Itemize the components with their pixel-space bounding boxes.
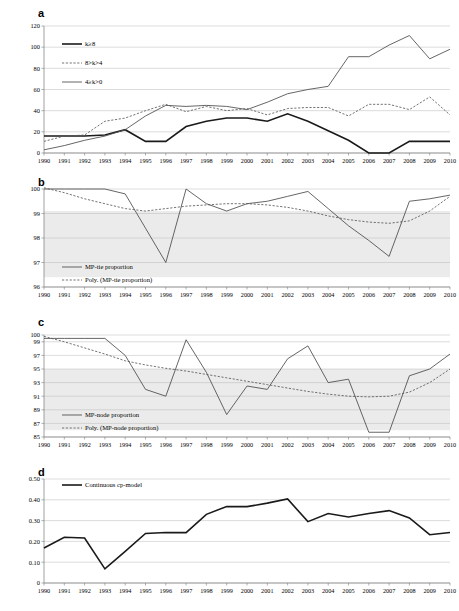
legend-label: Continuous cp-model [85,481,142,488]
y-axis-tick-label: 60 [34,86,40,93]
y-axis-tick-label: 91 [34,393,40,400]
y-axis-tick-label: 100 [30,43,40,50]
x-axis-tick-label: 1993 [99,291,111,298]
x-axis-tick-label: 2000 [241,157,253,164]
y-axis-tick-label: 98 [34,234,40,241]
chart-panel-c: c 85878991939597991001990199119921993199… [0,315,459,465]
x-axis-tick-label: 1996 [160,587,172,594]
x-axis-tick-label: 2003 [302,157,314,164]
legend-label: MP-node proportion [85,411,140,418]
x-axis-tick-label: 2006 [363,441,375,448]
x-axis-tick-label: 1999 [221,587,233,594]
x-axis-tick-label: 2003 [302,441,314,448]
y-axis-tick-label: 0 [37,579,40,586]
x-axis-tick-label: 1991 [58,157,70,164]
x-axis-tick-label: 1997 [180,587,192,594]
x-axis-tick-label: 2008 [403,441,415,448]
y-axis-tick-label: 85 [34,433,40,440]
y-axis-tick-label: 99 [34,210,40,217]
x-axis-tick-label: 1991 [58,441,70,448]
series-line-1 [44,499,450,569]
x-axis-tick-label: 1995 [139,157,151,164]
legend-label: 4≥k>0 [85,78,103,85]
y-axis-tick-label: 40 [34,107,40,114]
x-axis-tick-label: 1992 [78,441,90,448]
x-axis-tick-label: 1999 [221,441,233,448]
y-axis-tick-label: 120 [30,22,40,29]
x-axis-tick-label: 1994 [119,157,131,164]
y-axis-tick-label: 80 [34,65,40,72]
x-axis-tick-label: 2008 [403,291,415,298]
x-axis-tick-label: 2004 [322,157,334,164]
x-axis-tick-label: 2009 [424,587,436,594]
x-axis-tick-label: 1995 [139,291,151,298]
x-axis-tick-label: 1994 [119,441,131,448]
x-axis-tick-label: 2001 [261,291,273,298]
x-axis-tick-label: 1994 [119,291,131,298]
legend-label: Poly. (MP-node proportion) [85,424,158,432]
legend-label: Poly. (MP-tie proportion) [85,276,152,284]
chart-svg-d: 00.100.200.300.400.501990199119921993199… [0,465,459,611]
x-axis-tick-label: 2002 [281,441,293,448]
x-axis-tick-label: 1997 [180,441,192,448]
x-axis-tick-label: 2007 [383,587,395,594]
x-axis-tick-label: 2006 [363,587,375,594]
x-axis-tick-label: 1990 [38,157,50,164]
x-axis-tick-label: 2005 [342,157,354,164]
legend-label: MP-tie proportion [85,263,134,270]
x-axis-tick-label: 2000 [241,441,253,448]
y-axis-tick-label: 96 [34,283,40,290]
x-axis-tick-label: 1991 [58,291,70,298]
x-axis-tick-label: 1997 [180,291,192,298]
x-axis-tick-label: 1998 [200,157,212,164]
figure-root: a 02040608010012019901991199219931994199… [0,0,459,611]
x-axis-tick-label: 1992 [78,587,90,594]
x-axis-tick-label: 2001 [261,587,273,594]
x-axis-tick-label: 1998 [200,291,212,298]
y-axis-tick-label: 89 [34,406,40,413]
panel-letter-d: d [38,467,45,478]
x-axis-tick-label: 1999 [221,291,233,298]
x-axis-tick-label: 2007 [383,441,395,448]
legend-label: k≥8 [85,40,96,47]
x-axis-tick-label: 1998 [200,441,212,448]
x-axis-tick-label: 1994 [119,587,131,594]
chart-svg-b: 9697989910019901991199219931994199519961… [0,175,459,315]
x-axis-tick-label: 2002 [281,587,293,594]
y-axis-tick-label: 97 [34,259,41,266]
x-axis-tick-label: 2007 [383,291,395,298]
x-axis-tick-label: 2003 [302,587,314,594]
panel-letter-a: a [38,8,44,19]
y-axis-tick-label: 95 [34,365,40,372]
y-axis-tick-label: 97 [34,352,41,359]
x-axis-tick-label: 2009 [424,291,436,298]
x-axis-tick-label: 2008 [403,587,415,594]
x-axis-tick-label: 1995 [139,441,151,448]
x-axis-tick-label: 1993 [99,157,111,164]
x-axis-tick-label: 2004 [322,587,334,594]
chart-panel-d: d 00.100.200.300.400.5019901991199219931… [0,465,459,611]
x-axis-tick-label: 2006 [363,291,375,298]
x-axis-tick-label: 1996 [160,441,172,448]
chart-svg-a: 0204060801001201990199119921993199419951… [0,0,459,175]
series-line-3 [44,36,450,150]
y-axis-tick-label: 20 [34,128,40,135]
x-axis-tick-label: 2006 [363,157,375,164]
x-axis-tick-label: 2010 [444,441,456,448]
x-axis-tick-label: 1995 [139,587,151,594]
x-axis-tick-label: 1990 [38,587,50,594]
x-axis-tick-label: 2009 [424,157,436,164]
x-axis-tick-label: 2005 [342,291,354,298]
y-axis-tick-label: 100 [30,331,40,338]
x-axis-tick-label: 1993 [99,441,111,448]
x-axis-tick-label: 1993 [99,587,111,594]
x-axis-tick-label: 1998 [200,587,212,594]
x-axis-tick-label: 2002 [281,291,293,298]
x-axis-tick-label: 1997 [180,157,192,164]
x-axis-tick-label: 2010 [444,157,456,164]
panel-letter-b: b [38,177,45,188]
x-axis-tick-label: 1990 [38,291,50,298]
x-axis-tick-label: 2005 [342,587,354,594]
series-line-1 [44,114,450,153]
x-axis-tick-label: 2009 [424,441,436,448]
